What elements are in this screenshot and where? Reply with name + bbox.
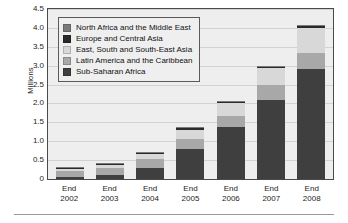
y-tick-label: 0 — [18, 175, 44, 183]
legend-swatch-icon — [63, 24, 71, 32]
legend-swatch-icon — [63, 46, 71, 54]
y-tick-label: 4.5 — [18, 5, 44, 13]
x-tick-label-line: 2005 — [176, 194, 204, 204]
x-tick-label-line: 2007 — [257, 194, 285, 204]
legend-item[interactable]: East, South and South-East Asia — [63, 44, 193, 55]
bar-column[interactable] — [217, 9, 245, 179]
x-tick-label: End2008 — [298, 184, 326, 210]
bar-segment[interactable] — [96, 168, 124, 175]
legend-swatch-icon — [63, 57, 71, 65]
bar-segment[interactable] — [297, 53, 325, 69]
bar-column[interactable] — [257, 9, 285, 179]
bar-segment[interactable] — [257, 68, 285, 85]
x-tick-label-line: 2006 — [217, 194, 245, 204]
bar-segment[interactable] — [257, 100, 285, 179]
legend-item-label: Latin America and the Caribbean — [76, 55, 193, 66]
bar-segment[interactable] — [176, 149, 204, 179]
x-tick-label-line: End — [96, 184, 124, 194]
bar-segment[interactable] — [297, 69, 325, 179]
bar-segment[interactable] — [176, 130, 204, 139]
y-tick-label: 0.5 — [18, 156, 44, 164]
x-tick-label: End2003 — [96, 184, 124, 210]
x-tick-label-line: End — [298, 184, 326, 194]
chart-figure: Millions 4.54.03.53.02.52.01.51.00.50 No… — [0, 0, 348, 223]
x-tick-label-line: End — [136, 184, 164, 194]
legend-item-label: Europe and Central Asia — [76, 33, 163, 44]
y-tick-label: 1.0 — [18, 137, 44, 145]
y-tick-label: 1.5 — [18, 118, 44, 126]
legend-item[interactable]: Europe and Central Asia — [63, 33, 193, 44]
y-axis-tick-labels: 4.54.03.53.02.52.01.51.00.50 — [18, 8, 44, 180]
legend-swatch-icon — [63, 35, 71, 43]
x-tick-label: End2007 — [257, 184, 285, 210]
bar-segment[interactable] — [297, 28, 325, 53]
x-tick-label-line: 2002 — [55, 194, 83, 204]
bar-column[interactable] — [297, 9, 325, 179]
legend-item[interactable]: Latin America and the Caribbean — [63, 55, 193, 66]
y-tick-label: 3.5 — [18, 43, 44, 51]
x-tick-label-line: 2004 — [136, 194, 164, 204]
x-tick-label-line: 2003 — [96, 194, 124, 204]
legend-item-label: Sub-Saharan Africa — [76, 66, 145, 77]
x-tick-label-line: End — [55, 184, 83, 194]
plot-area: North Africa and the Middle EastEurope a… — [47, 8, 334, 180]
chart-legend: North Africa and the Middle EastEurope a… — [58, 17, 200, 82]
x-tick-label-line: End — [217, 184, 245, 194]
x-tick-label: End2006 — [217, 184, 245, 210]
bar-segment[interactable] — [217, 127, 245, 179]
x-tick-label: End2005 — [176, 184, 204, 210]
x-tick-label: End2002 — [55, 184, 83, 210]
x-axis-tick-labels: End2002End2003End2004End2005End2006End20… — [47, 184, 334, 210]
y-tick-label: 2.0 — [18, 99, 44, 107]
bar-segment[interactable] — [136, 159, 164, 169]
legend-item[interactable]: Sub-Saharan Africa — [63, 66, 193, 77]
bar-segment[interactable] — [96, 175, 124, 179]
legend-item-label: East, South and South-East Asia — [76, 44, 192, 55]
y-tick-label: 4.0 — [18, 24, 44, 32]
legend-swatch-icon — [63, 68, 71, 76]
legend-item[interactable]: North Africa and the Middle East — [63, 22, 193, 33]
bar-segment[interactable] — [217, 103, 245, 115]
x-tick-label-line: End — [257, 184, 285, 194]
bar-segment[interactable] — [56, 177, 84, 179]
bar-segment[interactable] — [257, 85, 285, 100]
y-tick-label: 3.0 — [18, 62, 44, 70]
x-tick-label: End2004 — [136, 184, 164, 210]
x-tick-label-line: End — [176, 184, 204, 194]
bar-segment[interactable] — [136, 168, 164, 179]
bar-segment[interactable] — [217, 116, 245, 127]
bar-segment[interactable] — [176, 139, 204, 149]
legend-item-label: North Africa and the Middle East — [76, 22, 191, 33]
x-tick-label-line: 2008 — [298, 194, 326, 204]
footer-divider — [14, 214, 334, 215]
y-tick-label: 2.5 — [18, 81, 44, 89]
